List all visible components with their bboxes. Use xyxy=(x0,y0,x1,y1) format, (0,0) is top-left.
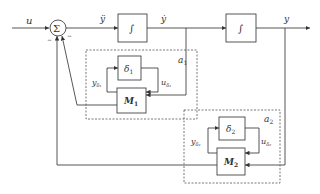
block-diagram: u ÿ ẏ y Σ − − ∫ ∫ a1 δ1 M1 yδ₁ uδ₁ a2 δ2… xyxy=(0,0,320,194)
y-delta-2-label: yδ₂ xyxy=(190,137,201,147)
y-delta-1-label: yδ₁ xyxy=(91,78,102,88)
output-label: y xyxy=(283,14,290,24)
minus-sign-2: − xyxy=(67,32,72,39)
integral-icon-2: ∫ xyxy=(238,23,243,34)
u-delta-2-label: uδ₂ xyxy=(261,137,271,147)
u-delta-2-line xyxy=(245,128,259,153)
delta-1-label: δ1 xyxy=(124,64,133,75)
sigma-icon: Σ xyxy=(53,23,60,34)
u-delta-1-label: uδ₁ xyxy=(161,78,171,88)
m1-label: M1 xyxy=(123,96,138,107)
minus-sign-1: − xyxy=(47,36,52,43)
delta-2-label: δ2 xyxy=(226,124,235,135)
m1-feedback-to-sum xyxy=(62,36,117,105)
m2-label: M2 xyxy=(223,157,238,168)
a2-label: a2 xyxy=(264,114,273,125)
y-delta-1-line xyxy=(107,68,118,92)
velocity-label: ẏ xyxy=(160,14,167,24)
acceleration-label: ÿ xyxy=(99,14,106,24)
integral-icon-1: ∫ xyxy=(129,23,134,34)
input-label: u xyxy=(26,15,32,26)
